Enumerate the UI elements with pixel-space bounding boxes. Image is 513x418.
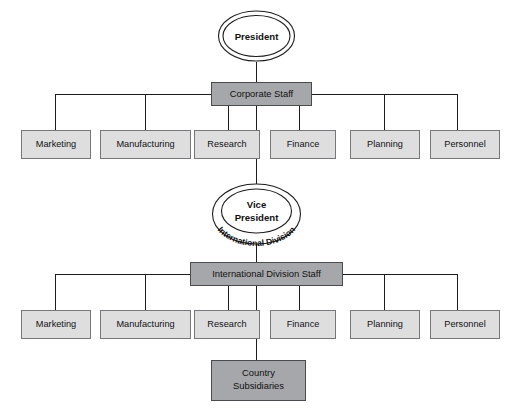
corporate-dept-research[interactable]: Research bbox=[195, 131, 260, 159]
department-label: Finance bbox=[287, 139, 320, 149]
corporate-staff-label: Corporate Staff bbox=[230, 88, 294, 99]
corporate-dept-planning[interactable]: Planning bbox=[351, 131, 420, 159]
international-dept-planning[interactable]: Planning bbox=[351, 311, 420, 339]
node-president[interactable]: President bbox=[219, 11, 295, 61]
department-label: Personnel bbox=[444, 319, 485, 329]
president-label: President bbox=[235, 31, 280, 42]
node-vice-president[interactable]: Vice President International Division bbox=[213, 184, 301, 248]
country-subsidiaries-label-line1: Country bbox=[242, 367, 275, 378]
department-label: Research bbox=[207, 139, 246, 149]
corporate-dept-personnel[interactable]: Personnel bbox=[431, 131, 500, 159]
department-label: Planning bbox=[367, 139, 403, 149]
vice-president-label-line1: Vice bbox=[247, 199, 267, 210]
international-dept-marketing[interactable]: Marketing bbox=[22, 311, 91, 339]
node-corporate-staff[interactable]: Corporate Staff bbox=[212, 83, 312, 106]
department-label: Finance bbox=[287, 319, 320, 329]
corporate-connectors bbox=[56, 62, 458, 188]
department-label: Manufacturing bbox=[116, 319, 174, 329]
corporate-dept-marketing[interactable]: Marketing bbox=[22, 131, 91, 159]
international-division-staff-label: International Division Staff bbox=[212, 268, 321, 279]
department-label: Marketing bbox=[36, 139, 76, 149]
org-chart-svg: President Corporate Staff Marketing Manu… bbox=[0, 0, 513, 418]
department-label: Marketing bbox=[36, 319, 76, 329]
node-international-division-staff[interactable]: International Division Staff bbox=[191, 263, 343, 286]
international-dept-finance[interactable]: Finance bbox=[271, 311, 336, 339]
international-connectors bbox=[56, 242, 458, 360]
corporate-dept-manufacturing[interactable]: Manufacturing bbox=[101, 131, 191, 159]
department-label: Planning bbox=[367, 319, 403, 329]
country-subsidiaries-label-line2: Subsidiaries bbox=[233, 380, 284, 391]
department-label: Personnel bbox=[444, 139, 485, 149]
international-department-row: Marketing Manufacturing Research Finance… bbox=[22, 311, 500, 339]
department-label: Manufacturing bbox=[116, 139, 174, 149]
department-label: Research bbox=[207, 319, 246, 329]
international-dept-personnel[interactable]: Personnel bbox=[431, 311, 500, 339]
international-dept-manufacturing[interactable]: Manufacturing bbox=[101, 311, 191, 339]
corporate-department-row: Marketing Manufacturing Research Finance… bbox=[22, 131, 500, 159]
international-dept-research[interactable]: Research bbox=[195, 311, 260, 339]
vice-president-label-line2: President bbox=[235, 212, 280, 223]
node-country-subsidiaries[interactable]: Country Subsidiaries bbox=[212, 361, 306, 401]
corporate-dept-finance[interactable]: Finance bbox=[271, 131, 336, 159]
org-chart-canvas: President Corporate Staff Marketing Manu… bbox=[0, 0, 513, 418]
